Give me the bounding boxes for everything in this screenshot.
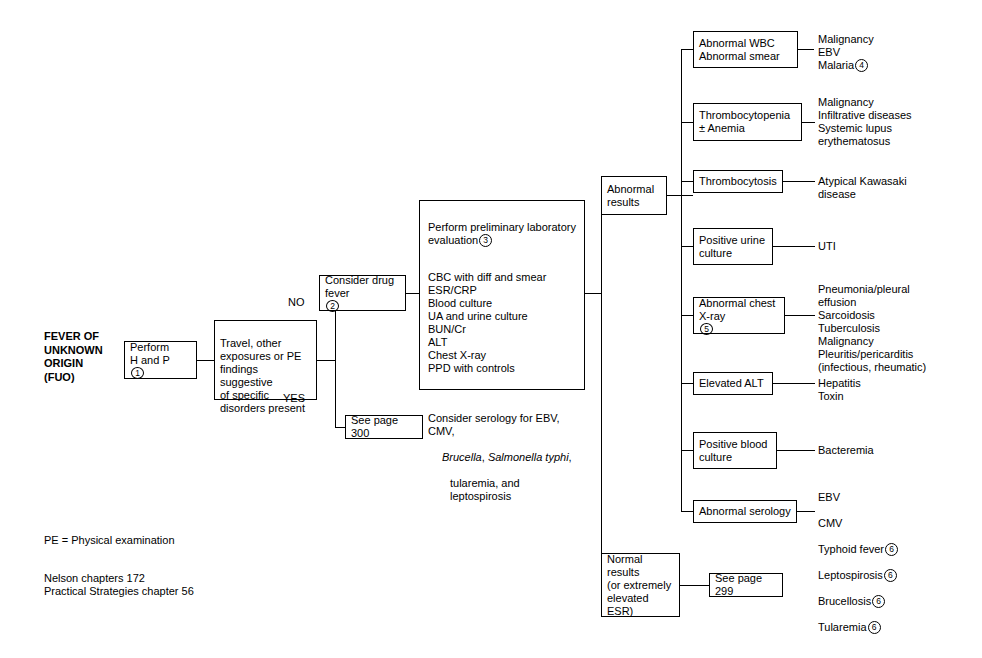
footnote-marker-6d: 6	[868, 621, 881, 634]
box-abnormal-serology-label: Abnormal serology	[699, 505, 791, 518]
outcome-serology-line-4-text: Leptospirosis	[818, 569, 883, 581]
box-positive-urine-culture-label: Positive urine culture	[699, 234, 767, 260]
edge-stub-thrombocytosis	[681, 181, 693, 182]
edge-stub-abnormal-wbc	[681, 49, 693, 50]
footnote-marker-4: 4	[855, 59, 868, 72]
footnote-marker-1: 1	[131, 367, 144, 379]
box-perform-h-and-p-label: Perform H and P	[130, 341, 191, 367]
outcome-abnormal-wbc: Malignancy EBV Malaria4	[818, 33, 874, 72]
outcome-serology-line-4: Leptospirosis6	[818, 569, 898, 582]
pathogen-brucella: Brucella	[442, 451, 482, 463]
box-consider-drug-fever[interactable]: Consider drug fever2	[319, 275, 406, 311]
footnote-marker-5: 5	[700, 323, 713, 335]
box-abnormal-wbc-label: Abnormal WBC Abnormal smear	[699, 37, 792, 63]
box-abnormal-results[interactable]: Abnormal results	[601, 176, 667, 215]
edge-elevated-alt-to-outcome	[773, 383, 815, 384]
edge-stub-positive-urine	[681, 246, 693, 247]
box-thrombocytopenia[interactable]: Thrombocytopenia ± Anemia	[693, 103, 802, 141]
outcome-serology-line-3-text: Typhoid fever	[818, 543, 884, 555]
footnote-references: Nelson chapters 172 Practical Strategies…	[44, 572, 194, 598]
edge-travel-out	[317, 360, 335, 361]
outcome-abnormal-serology: EBV CMV Typhoid fever6 Leptospirosis6 Br…	[818, 478, 898, 647]
footnote-marker-3: 3	[479, 234, 492, 247]
edge-abnormal-out	[667, 195, 693, 196]
box-positive-urine-culture[interactable]: Positive urine culture	[693, 228, 773, 265]
box-lab-serology-line-1: Consider serology for EBV, CMV,	[428, 412, 576, 438]
edge-lab-out	[585, 293, 601, 294]
edge-hp-to-travel	[197, 360, 214, 361]
box-lab-heading: Perform preliminary laboratory evaluatio…	[428, 221, 576, 246]
outcome-serology-line-6: Tularemia6	[818, 621, 898, 634]
outcome-serology-line-5-text: Brucellosis	[818, 595, 871, 607]
edge-stub-abnormal-serology	[681, 511, 693, 512]
edge-abnormal-wbc-to-outcome	[798, 49, 814, 50]
box-elevated-alt-label: Elevated ALT	[699, 377, 767, 390]
footnote-marker-6b: 6	[884, 569, 897, 582]
edge-lab-split-spine	[601, 195, 602, 585]
edge-label-no: NO	[288, 296, 305, 309]
box-perform-h-and-p[interactable]: Perform H and P1	[124, 341, 197, 379]
box-see-page-300[interactable]: See page 300	[345, 415, 423, 439]
box-elevated-alt[interactable]: Elevated ALT	[693, 372, 773, 395]
box-lab-tests-list: CBC with diff and smear ESR/CRP Blood cu…	[428, 271, 576, 375]
box-abnormal-chest-xray-label: Abnormal chest X-ray	[699, 297, 779, 323]
box-abnormal-serology[interactable]: Abnormal serology	[693, 500, 797, 523]
box-abnormal-results-label: Abnormal results	[607, 183, 661, 209]
edge-abnormal-chest-to-outcome	[785, 315, 815, 316]
outcome-serology-line-2: CMV	[818, 517, 898, 530]
box-abnormal-chest-xray[interactable]: Abnormal chest X-ray5	[693, 297, 785, 334]
edge-abnormal-serology-to-outcome	[797, 511, 815, 512]
outcome-serology-line-5: Brucellosis6	[818, 595, 898, 608]
box-positive-blood-culture-label: Positive blood culture	[699, 438, 771, 464]
box-abnormal-wbc[interactable]: Abnormal WBC Abnormal smear	[693, 31, 798, 68]
box-thrombocytosis-label: Thrombocytosis	[699, 175, 777, 188]
outcome-elevated-alt: Hepatitis Toxin	[818, 377, 861, 403]
edge-normal-to-page299	[680, 585, 709, 586]
outcome-serology-line-6-text: Tularemia	[818, 621, 867, 633]
box-normal-results-label: Normal results (or extremely elevated ES…	[607, 553, 674, 618]
box-see-page-300-label: See page 300	[351, 414, 417, 440]
box-consider-drug-fever-label: Consider drug fever	[325, 274, 400, 300]
page-title: FEVER OF UNKNOWN ORIGIN (FUO)	[44, 330, 124, 384]
box-preliminary-lab-evaluation[interactable]: Perform preliminary laboratory evaluatio…	[419, 200, 585, 390]
edge-drugfever-to-lab	[406, 293, 419, 294]
footnote-marker-2: 2	[326, 300, 339, 312]
lab-spacer-2	[428, 388, 576, 399]
edge-label-yes: YES	[283, 392, 305, 405]
box-see-page-299[interactable]: See page 299	[709, 573, 783, 597]
edge-abnormal-fan-spine	[681, 49, 682, 511]
serology-comma-2: ,	[569, 451, 572, 463]
edge-travel-split-spine	[335, 293, 336, 428]
box-see-page-299-label: See page 299	[715, 572, 777, 598]
outcome-positive-urine: UTI	[818, 240, 836, 253]
edge-stub-thrombocytopenia	[681, 122, 693, 123]
edge-stub-elevated-alt	[681, 383, 693, 384]
box-travel-exposures[interactable]: Travel, other exposures or PE findings s…	[214, 320, 317, 400]
edge-positive-blood-to-outcome	[777, 450, 815, 451]
outcome-positive-blood: Bacteremia	[818, 444, 874, 457]
footnote-abbreviation: PE = Physical examination	[44, 534, 175, 547]
edge-stub-positive-blood	[681, 450, 693, 451]
box-lab-serology-line-2: Brucella, Salmonella typhi,	[428, 451, 576, 464]
edge-thrombocytosis-to-outcome	[783, 181, 815, 182]
box-lab-serology-line-3: tularemia, and leptospirosis	[428, 477, 576, 503]
box-normal-results[interactable]: Normal results (or extremely elevated ES…	[601, 553, 680, 617]
edge-thrombocytopenia-to-outcome	[802, 122, 815, 123]
lab-spacer-1	[428, 247, 576, 258]
edge-stub-abnormal-chest	[681, 315, 693, 316]
footnote-marker-6c: 6	[872, 595, 885, 608]
pathogen-salmonella-typhi: Salmonella typhi	[488, 451, 569, 463]
outcome-thrombocytopenia: Malignancy Infiltrative diseases Systemi…	[818, 96, 912, 148]
box-positive-blood-culture[interactable]: Positive blood culture	[693, 432, 777, 469]
flowchart-canvas: FEVER OF UNKNOWN ORIGIN (FUO) Perform H …	[0, 0, 982, 658]
footnote-marker-6a: 6	[885, 543, 898, 556]
outcome-serology-line-3: Typhoid fever6	[818, 543, 898, 556]
box-thrombocytopenia-label: Thrombocytopenia ± Anemia	[699, 109, 796, 135]
edge-positive-urine-to-outcome	[773, 246, 815, 247]
outcome-thrombocytosis: Atypical Kawasaki disease	[818, 175, 907, 201]
box-thrombocytosis[interactable]: Thrombocytosis	[693, 170, 783, 193]
outcome-serology-line-1: EBV	[818, 491, 898, 504]
outcome-abnormal-chest: Pneumonia/pleural effusion Sarcoidosis T…	[818, 283, 926, 374]
